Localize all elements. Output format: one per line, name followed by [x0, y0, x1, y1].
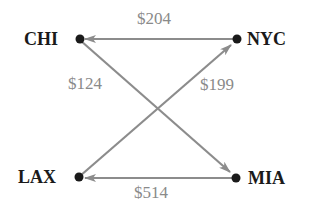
node-nyc-dot — [233, 35, 242, 44]
node-label-nyc: NYC — [247, 30, 286, 48]
node-chi-dot — [76, 35, 85, 44]
node-label-chi: CHI — [24, 30, 58, 48]
edge-lax-nyc — [80, 45, 231, 176]
node-label-lax: LAX — [18, 168, 56, 186]
edge-label-lax-nyc: $199 — [200, 76, 234, 93]
node-label-mia: MIA — [248, 169, 285, 187]
edge-label-mia-lax: $514 — [134, 184, 168, 201]
node-mia-dot — [232, 174, 241, 183]
edge-chi-mia — [81, 41, 230, 172]
edge-label-nyc-chi: $204 — [137, 10, 171, 27]
node-lax-dot — [75, 173, 84, 182]
edge-label-chi-mia: $124 — [68, 75, 102, 92]
